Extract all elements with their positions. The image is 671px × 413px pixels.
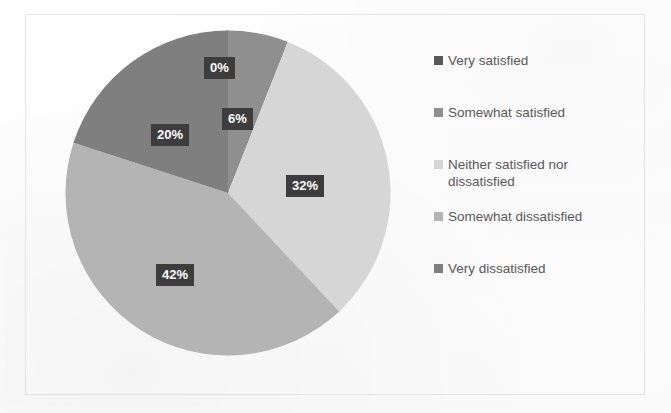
legend-color-swatch-icon xyxy=(434,160,443,169)
legend-color-swatch-icon xyxy=(434,56,443,65)
legend-color-swatch-icon xyxy=(434,212,443,221)
legend-item[interactable]: Very satisfied xyxy=(434,52,634,69)
pie-data-label: 42% xyxy=(156,264,194,286)
legend-item[interactable]: Somewhat dissatisfied xyxy=(434,208,634,225)
legend-item-label: Somewhat dissatisfied xyxy=(448,208,582,225)
legend-color-swatch-icon xyxy=(434,264,443,273)
pie-data-label: 6% xyxy=(222,108,253,130)
legend-color-swatch-icon xyxy=(434,108,443,117)
legend-item[interactable]: Neither satisfied nor dissatisfied xyxy=(434,156,634,190)
pie-slice-group xyxy=(65,30,390,355)
legend-item-label: Very satisfied xyxy=(448,52,528,69)
legend-item[interactable]: Very dissatisfied xyxy=(434,260,634,277)
legend-item[interactable]: Somewhat satisfied xyxy=(434,104,634,121)
legend-item-label: Neither satisfied nor dissatisfied xyxy=(448,156,626,190)
pie-data-label: 0% xyxy=(204,57,235,79)
pie-data-label: 20% xyxy=(151,124,189,146)
legend-item-label: Very dissatisfied xyxy=(448,260,546,277)
legend-item-label: Somewhat satisfied xyxy=(448,104,565,121)
chart-plot-area: 0%6%32%42%20% Very satisfiedSomewhat sat… xyxy=(0,0,671,413)
pie-data-label: 32% xyxy=(286,175,324,197)
chart-screenshot: 0%6%32%42%20% Very satisfiedSomewhat sat… xyxy=(0,0,671,413)
